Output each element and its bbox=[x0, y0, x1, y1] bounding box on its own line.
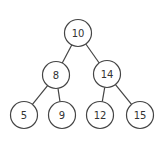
edge-n8-n9 bbox=[58, 88, 60, 101]
node-label: 8 bbox=[53, 70, 59, 81]
node-label: 9 bbox=[59, 110, 65, 121]
node-label: 15 bbox=[134, 110, 147, 121]
edge-n10-n8 bbox=[62, 45, 71, 63]
node-label: 5 bbox=[21, 110, 27, 121]
tree-node-8: 8 bbox=[43, 62, 70, 89]
node-label: 14 bbox=[101, 69, 114, 80]
tree-node-14: 14 bbox=[94, 61, 121, 88]
node-label: 12 bbox=[94, 110, 107, 121]
edge-n10-n14 bbox=[86, 44, 99, 63]
edge-n14-n15 bbox=[115, 85, 131, 105]
node-label: 10 bbox=[72, 28, 85, 39]
tree-node-10: 10 bbox=[65, 20, 92, 47]
tree-node-9: 9 bbox=[49, 102, 76, 129]
tree-nodes: 10814591215 bbox=[11, 20, 154, 129]
tree-node-15: 15 bbox=[127, 102, 154, 129]
edge-n14-n12 bbox=[102, 87, 104, 101]
tree-diagram: 10814591215 bbox=[0, 0, 161, 142]
edge-n8-n5 bbox=[32, 86, 47, 105]
tree-node-12: 12 bbox=[87, 102, 114, 129]
tree-node-5: 5 bbox=[11, 102, 38, 129]
